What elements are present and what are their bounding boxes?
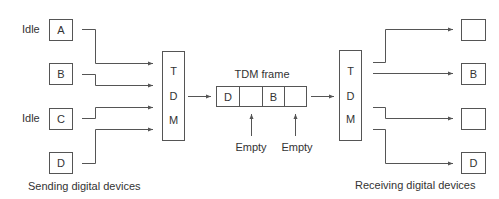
receiver-3 (462, 109, 486, 130)
tdm-diagram: Idle Idle A B C D T D M TDM frame D B (0, 0, 499, 199)
svg-text:T: T (170, 65, 177, 77)
sender-d: D (50, 153, 73, 174)
svg-text:D: D (224, 91, 232, 103)
svg-text:B: B (470, 68, 477, 80)
svg-text:M: M (169, 114, 178, 126)
frame-title: TDM frame (235, 68, 290, 80)
svg-text:M: M (346, 113, 355, 125)
sender-a: A (50, 20, 73, 41)
frame-slot-2 (240, 87, 263, 107)
svg-text:C: C (57, 113, 65, 125)
sender-c-status: Idle (22, 112, 40, 124)
sender-b: B (50, 64, 73, 85)
svg-text:D: D (57, 157, 65, 169)
empty-label-1: Empty (235, 141, 267, 153)
sending-caption: Sending digital devices (28, 180, 141, 192)
connector-b-to-mux (82, 75, 153, 86)
connector-demux-to-r4 (373, 130, 453, 164)
connector-d-to-mux (82, 130, 153, 164)
svg-text:A: A (57, 24, 65, 36)
connector-demux-to-r1 (373, 30, 453, 63)
connector-c-to-mux (82, 108, 153, 119)
tdm-multiplexer: T D M (163, 52, 185, 141)
receiver-d: D (462, 153, 486, 174)
tdm-frame: D B (217, 87, 307, 107)
connector-demux-to-r3 (373, 108, 453, 119)
sender-a-status: Idle (22, 23, 40, 35)
receiving-caption: Receiving digital devices (355, 179, 476, 191)
receiver-1 (462, 20, 486, 41)
svg-text:B: B (270, 91, 277, 103)
svg-text:B: B (57, 68, 64, 80)
svg-text:D: D (470, 157, 478, 169)
svg-text:D: D (347, 90, 355, 102)
frame-slot-4 (285, 87, 307, 107)
sender-c: C (50, 109, 73, 130)
tdm-demultiplexer: T D M (340, 51, 362, 141)
svg-text:T: T (347, 65, 354, 77)
receiver-b: B (462, 64, 486, 85)
empty-label-2: Empty (281, 141, 313, 153)
svg-text:D: D (170, 90, 178, 102)
connector-a-to-mux (82, 30, 153, 64)
